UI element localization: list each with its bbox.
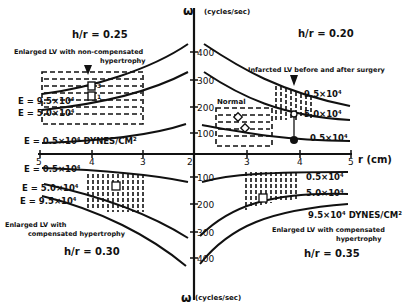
quadrant-top-right: h/r = 0.20 Infarcted LV before and after… [202,28,386,146]
ratio-tl: h/r = 0.25 [72,29,128,40]
arrow-marker-infarcted [290,75,298,86]
r-tick-2: 2 [187,157,193,167]
r-tick-5-right: 5 [348,157,354,167]
quadrant-top-left: 3 1 h/r = 0.25 Enlarged LV with non-comp… [14,29,188,146]
quadrant-bottom-right: 0.5×10⁴ 5.0×10⁴ 9.5×10⁴ DYNES/CM² Enlarg… [200,172,402,264]
e-label-5.0-bl: E = 5.0×10⁴ [22,183,79,193]
e-label-0.5-tl: E = 0.5×10⁴ DYNES/CM² [24,136,137,146]
e-label-9.5-tl: E = 9.5×10⁴ [18,96,75,106]
e-label-0.5-br: 0.5×10⁴ [306,172,344,182]
e-label-5.0-br: 5.0×10⁴ [306,188,344,198]
frequency-diagram: 400 300 200 100 100 200 300 400 ω (cycle… [0,0,409,308]
e-label-0.5-tr: 0.5×10⁴ [310,133,348,143]
marker-1-box [88,92,95,100]
omega-bottom-unit: (cycles/sec) [195,294,241,302]
infarct-before-marker [291,111,297,117]
tick-400-bottom: 400 [197,254,214,264]
r-tick-4-right: 4 [297,157,303,167]
infarct-after-marker [290,136,298,144]
title-br-line1: Enlarged LV with compensated [272,226,385,234]
e-label-9.5-tr: 9.5×10⁴ [304,89,342,99]
marker-square-br [259,194,267,202]
r-tick-3-right: 3 [244,157,250,167]
ratio-tr: h/r = 0.20 [298,28,354,39]
marker-square-bl [112,182,120,190]
normal-label: Normal [217,98,246,106]
ratio-br: h/r = 0.35 [304,248,360,259]
title-tr: Infarcted LV before and after surgery [248,66,386,74]
ratio-bl: h/r = 0.30 [64,246,120,257]
marker-3-label: 3 [97,82,101,89]
omega-bottom-symbol: ω [181,291,191,305]
e-label-9.5-bl: E = 9.5×10⁴ [20,196,77,206]
e-label-0.5-bl: E = 0.5×10⁴ [24,164,81,174]
marker-1-label: 1 [97,93,101,100]
r-tick-4-left: 4 [89,157,95,167]
omega-top-symbol: ω [183,4,193,18]
dashed-region-bl [88,174,143,212]
tick-200-bottom: 200 [197,200,214,210]
diagram: 400 300 200 100 100 200 300 400 ω (cycle… [0,0,409,308]
title-br-line2: hypertrophy [336,235,382,243]
title-tl-line1: Enlarged LV with non-compensated [14,48,144,56]
title-tl-line2: hypertrophy [100,57,146,65]
arrow-marker-tl [84,65,92,75]
tick-100-top: 100 [197,129,214,139]
omega-top-unit: (cycles/sec) [204,8,250,16]
normal-marker-1 [234,113,242,121]
r-tick-3-left: 3 [140,157,146,167]
title-bl-line2: compensated hypertrophy [28,230,126,238]
title-bl-line1: Enlarged LV with [5,221,67,229]
e-label-9.5-br: 9.5×10⁴ DYNES/CM² [308,210,402,220]
e-label-5.0-tr: 5.0×10⁴ [304,109,342,119]
marker-3-box [88,82,95,90]
r-axis-label: r (cm) [358,154,392,165]
tick-200-top: 200 [197,103,214,113]
normal-marker-2 [241,124,249,132]
quadrant-bottom-left: E = 0.5×10⁴ E = 5.0×10⁴ E = 9.5×10⁴ Enla… [5,164,188,266]
e-label-5.0-tl: E = 5.0×10⁴ [18,108,75,118]
